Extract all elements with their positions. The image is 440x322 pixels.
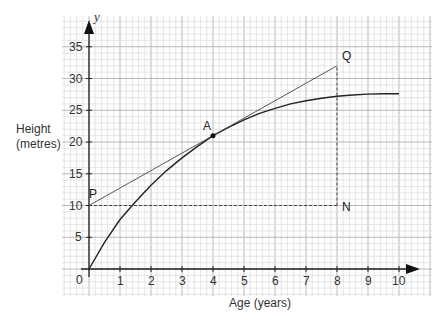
y-tick-label: 5 — [75, 230, 82, 244]
x-tick-label: 6 — [272, 274, 279, 288]
x-tick-label: 1 — [117, 274, 124, 288]
point-label-q: Q — [342, 49, 351, 63]
origin-label: 0 — [76, 273, 83, 287]
x-tick-label: 10 — [392, 274, 405, 288]
point-label-a: A — [203, 119, 211, 133]
x-tick-label: 9 — [365, 274, 372, 288]
y-axis-label-line2: (metres) — [16, 137, 61, 151]
chart-plot — [0, 0, 440, 322]
x-tick-label: 5 — [241, 274, 248, 288]
y-tick-label: 35 — [69, 40, 82, 54]
y-tick-label: 10 — [69, 199, 82, 213]
x-tick-label: 7 — [303, 274, 310, 288]
x-axis-label: Age (years) — [229, 296, 291, 310]
y-tick-label: 30 — [69, 72, 82, 86]
y-axis-symbol: y — [94, 10, 100, 24]
point-marker-a — [211, 133, 216, 138]
point-label-p: P — [89, 187, 97, 201]
y-tick-label: 25 — [69, 103, 82, 117]
x-tick-label: 4 — [210, 274, 217, 288]
x-tick-label: 8 — [334, 274, 341, 288]
y-tick-label: 20 — [69, 135, 82, 149]
grid — [62, 16, 432, 296]
y-axis-arrow-icon — [84, 20, 94, 34]
x-tick-label: 3 — [179, 274, 186, 288]
y-tick-label: 15 — [69, 167, 82, 181]
x-tick-label: 2 — [148, 274, 155, 288]
point-label-n: N — [342, 200, 351, 214]
y-axis-label-line1: Height — [16, 122, 51, 136]
